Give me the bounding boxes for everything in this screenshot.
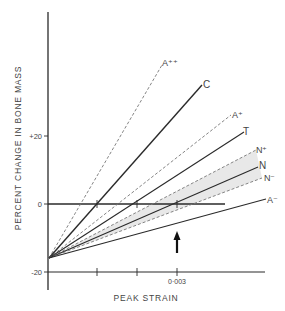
bone-mass-strain-chart: A⁺⁺ C A⁺ T N⁺ N N⁻ A⁻ +20 0 -20 0·003 PE… — [0, 0, 285, 311]
ytick-label-0: 0 — [38, 200, 42, 209]
label-a-plus-plus: A⁺⁺ — [162, 58, 178, 68]
label-a-minus: A⁻ — [267, 195, 278, 205]
arrow-up-icon — [174, 231, 181, 253]
ytick-label-p20: +20 — [29, 132, 42, 141]
label-c: C — [203, 79, 210, 90]
xtick-label-0003: 0·003 — [168, 278, 186, 285]
y-axis-title: PERCENT CHANGE IN BONE MASS — [13, 66, 23, 231]
label-n: N — [259, 160, 266, 171]
line-c — [49, 85, 202, 258]
label-a-plus: A⁺ — [232, 110, 243, 120]
line-n — [49, 167, 258, 258]
label-t: T — [243, 126, 249, 137]
label-n-plus: N⁺ — [256, 145, 268, 155]
label-n-minus: N⁻ — [264, 173, 276, 183]
ytick-label-m20: -20 — [31, 268, 42, 277]
x-axis-title: PEAK STRAIN — [113, 293, 178, 303]
